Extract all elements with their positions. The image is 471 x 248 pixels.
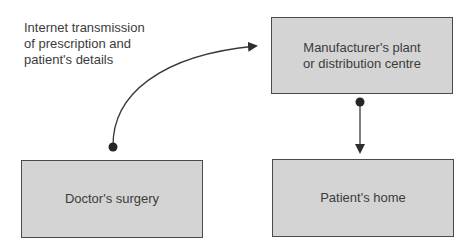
transmission-annotation: Internet transmission of prescription an… [24, 20, 145, 68]
delivery-arrow [356, 98, 365, 153]
start-dot-icon [109, 143, 118, 152]
doctor-node: Doctor's surgery [21, 160, 203, 238]
start-dot-icon [356, 98, 365, 107]
manufacturer-node: Manufacturer's plant or distribution cen… [271, 17, 453, 94]
patient-node: Patient's home [272, 159, 454, 237]
